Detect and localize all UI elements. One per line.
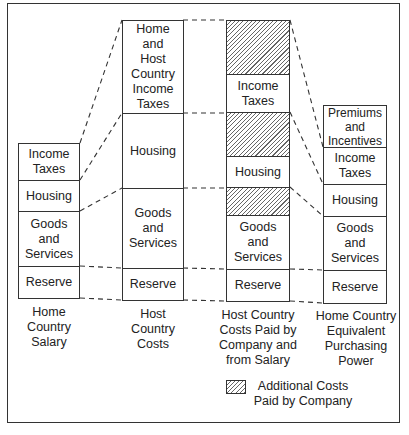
dashed-connector xyxy=(80,20,122,143)
dashed-connector xyxy=(290,112,323,184)
segment-additional-cost-hatched xyxy=(226,187,290,216)
segment-housing: Housing xyxy=(226,156,290,188)
legend-label: Additional Costs Paid by Company xyxy=(248,379,358,409)
dashed-connector xyxy=(183,268,226,269)
segment-premiums-and-incentives: Premiums and Incentives xyxy=(323,105,387,148)
dashed-connector xyxy=(290,301,323,303)
segment-goods-and-services: Goods and Services xyxy=(18,211,80,267)
segment-additional-cost-hatched xyxy=(226,112,290,157)
column-caption: Host Country Costs xyxy=(118,307,188,352)
segment-income-taxes: Income Taxes xyxy=(226,74,290,113)
dashed-connector xyxy=(290,187,323,216)
column-caption: Host Country Costs Paid by Company and f… xyxy=(212,308,304,368)
segment-housing: Housing xyxy=(323,184,387,217)
segment-goods-and-services: Goods and Services xyxy=(226,215,290,270)
hatch-swatch-icon xyxy=(226,380,246,394)
dashed-connector xyxy=(290,20,323,147)
segment-housing: Housing xyxy=(18,180,80,212)
dashed-connector xyxy=(80,266,122,268)
segment-additional-cost-hatched xyxy=(226,20,290,75)
dashed-connector xyxy=(80,188,122,211)
dashed-connector xyxy=(80,298,122,300)
segment-reserve: Reserve xyxy=(226,269,290,302)
segment-home-and-host-income-taxes: Home and Host Country Income Taxes xyxy=(122,20,184,114)
segment-reserve: Reserve xyxy=(122,268,184,301)
segment-housing: Housing xyxy=(122,113,184,189)
dashed-connector xyxy=(183,300,226,301)
segment-income-taxes: Income Taxes xyxy=(18,143,80,181)
column-caption: Home Country Salary xyxy=(14,305,84,350)
dashed-connector xyxy=(290,269,323,270)
segment-goods-and-services: Goods and Services xyxy=(122,188,184,269)
column-caption: Home Country Equivalent Purchasing Power xyxy=(308,309,404,369)
segment-reserve: Reserve xyxy=(323,270,387,304)
segment-reserve: Reserve xyxy=(18,266,80,299)
segment-income-taxes: Income Taxes xyxy=(323,147,387,185)
segment-goods-and-services: Goods and Services xyxy=(323,216,387,271)
